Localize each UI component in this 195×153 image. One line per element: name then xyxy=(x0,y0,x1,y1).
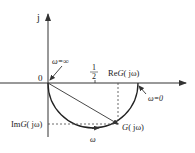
imag-axis-label: j xyxy=(36,12,40,23)
nyquist-diagram: j 0 ω=∞ 1 2 ReG( jω) ω=0 ImG( jω) G( jω)… xyxy=(0,0,195,153)
real-axis-label: ReG( jω) xyxy=(108,68,140,78)
imag-part-label: ImG( jω) xyxy=(11,119,43,129)
omega-direction-label: ω xyxy=(90,135,96,144)
omega-inf-pointer xyxy=(50,66,62,80)
omega-inf-label: ω=∞ xyxy=(52,57,69,66)
origin-label: 0 xyxy=(38,73,43,83)
g-vector xyxy=(48,83,118,124)
omega-zero-pointer xyxy=(139,86,146,94)
half-numerator: 1 xyxy=(92,63,96,72)
half-denominator: 2 xyxy=(92,72,96,81)
point-g-label: G( jω) xyxy=(122,122,144,132)
omega-zero-label: ω=0 xyxy=(148,94,163,103)
